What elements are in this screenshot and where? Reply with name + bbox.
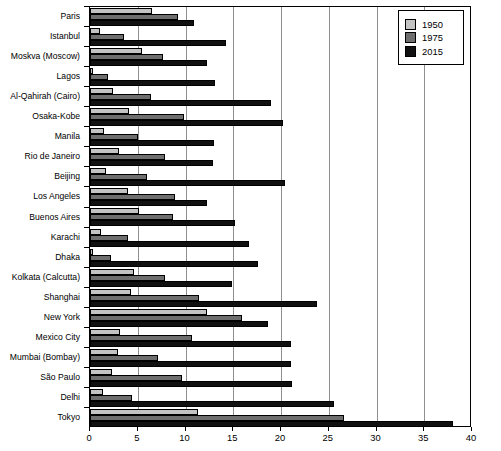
- bar-2015: [90, 200, 207, 206]
- legend-item-2[interactable]: 2015: [405, 46, 458, 57]
- bar-2015: [90, 180, 285, 186]
- x-tick-label: 5: [134, 432, 139, 443]
- category-label: Beijing: [54, 171, 80, 181]
- bar-2015: [90, 281, 232, 287]
- category-label: Delhi: [60, 392, 80, 402]
- category-label: Rio de Janeiro: [25, 151, 80, 161]
- bar-group: [90, 348, 470, 368]
- bar-group: [90, 207, 470, 227]
- bar-rows: [90, 7, 470, 426]
- bar-2015: [90, 120, 283, 126]
- legend-item-label: 1975: [422, 32, 443, 43]
- bar-group: [90, 328, 470, 348]
- category-label: Kolkata (Calcutta): [12, 272, 80, 282]
- category-label: Paris: [60, 11, 80, 21]
- bar-group: [90, 67, 470, 87]
- bar-2015: [90, 140, 214, 146]
- bar-2015: [90, 20, 194, 26]
- bar-2015: [90, 341, 291, 347]
- category-label: Moskva (Moscow): [11, 51, 80, 61]
- legend: 1950 1975 2015: [398, 10, 464, 65]
- bar-group: [90, 388, 470, 408]
- bar-2015: [90, 401, 334, 407]
- legend-swatch-icon: [405, 19, 416, 30]
- bar-2015: [90, 220, 235, 226]
- bar-group: [90, 187, 470, 207]
- bar-group: [90, 288, 470, 308]
- bar-group: [90, 87, 470, 107]
- x-tick: [185, 427, 186, 431]
- legend-swatch-icon: [405, 32, 416, 43]
- x-tick: [423, 427, 424, 431]
- x-tick-label: 30: [370, 432, 380, 443]
- bar-2015: [90, 160, 213, 166]
- bar-group: [90, 127, 470, 147]
- x-tick-label: 10: [179, 432, 189, 443]
- bar-2015: [90, 80, 215, 86]
- legend-item-label: 2015: [422, 46, 443, 57]
- category-label: New York: [44, 312, 80, 322]
- x-tick: [328, 427, 329, 431]
- bar-2015: [90, 261, 258, 267]
- x-tick-label: 40: [466, 432, 476, 443]
- category-label: Mexico City: [36, 332, 80, 342]
- category-label: Al-Qahirah (Cairo): [10, 91, 80, 101]
- bar-group: [90, 228, 470, 248]
- value-axis: 0510152025303540: [89, 427, 471, 449]
- category-label: Tokyo: [58, 412, 80, 422]
- plot-area: [89, 6, 471, 427]
- category-label: São Paulo: [40, 372, 80, 382]
- bar-2015: [90, 40, 226, 46]
- bar-2015: [90, 321, 268, 327]
- legend-swatch-icon: [405, 46, 416, 57]
- bar-group: [90, 408, 470, 428]
- x-tick: [471, 427, 472, 431]
- bar-2015: [90, 100, 271, 106]
- bar-chart: ParisIstanbulMoskva (Moscow)LagosAl-Qahi…: [0, 0, 501, 451]
- legend-item-1[interactable]: 1975: [405, 32, 458, 43]
- x-tick: [232, 427, 233, 431]
- legend-item-0[interactable]: 1950: [405, 19, 458, 30]
- category-label: Buenos Aires: [29, 212, 80, 222]
- x-tick-label: 20: [275, 432, 285, 443]
- bar-group: [90, 268, 470, 288]
- x-tick-label: 25: [323, 432, 333, 443]
- bar-2015: [90, 241, 249, 247]
- category-label: Osaka-Kobe: [32, 111, 80, 121]
- x-tick: [137, 427, 138, 431]
- x-tick-label: 15: [227, 432, 237, 443]
- bar-group: [90, 167, 470, 187]
- x-tick-label: 0: [86, 432, 91, 443]
- category-label: Shanghai: [44, 292, 80, 302]
- bar-group: [90, 147, 470, 167]
- x-tick: [89, 427, 90, 431]
- bar-2015: [90, 301, 317, 307]
- bar-2015: [90, 381, 292, 387]
- x-tick: [280, 427, 281, 431]
- category-label: Mumbai (Bombay): [10, 352, 80, 362]
- category-label: Dhaka: [55, 252, 80, 262]
- x-tick: [376, 427, 377, 431]
- bar-2015: [90, 361, 291, 367]
- x-tick-label: 35: [418, 432, 428, 443]
- bar-group: [90, 368, 470, 388]
- category-label: Los Angeles: [33, 191, 80, 201]
- bar-group: [90, 308, 470, 328]
- legend-item-label: 1950: [422, 19, 443, 30]
- category-label: Manila: [55, 131, 80, 141]
- category-label: Istanbul: [50, 31, 80, 41]
- category-label: Lagos: [57, 71, 80, 81]
- bar-2015: [90, 60, 207, 66]
- bar-group: [90, 107, 470, 127]
- category-axis: ParisIstanbulMoskva (Moscow)LagosAl-Qahi…: [0, 6, 86, 427]
- category-label: Karachi: [51, 232, 80, 242]
- bar-group: [90, 248, 470, 268]
